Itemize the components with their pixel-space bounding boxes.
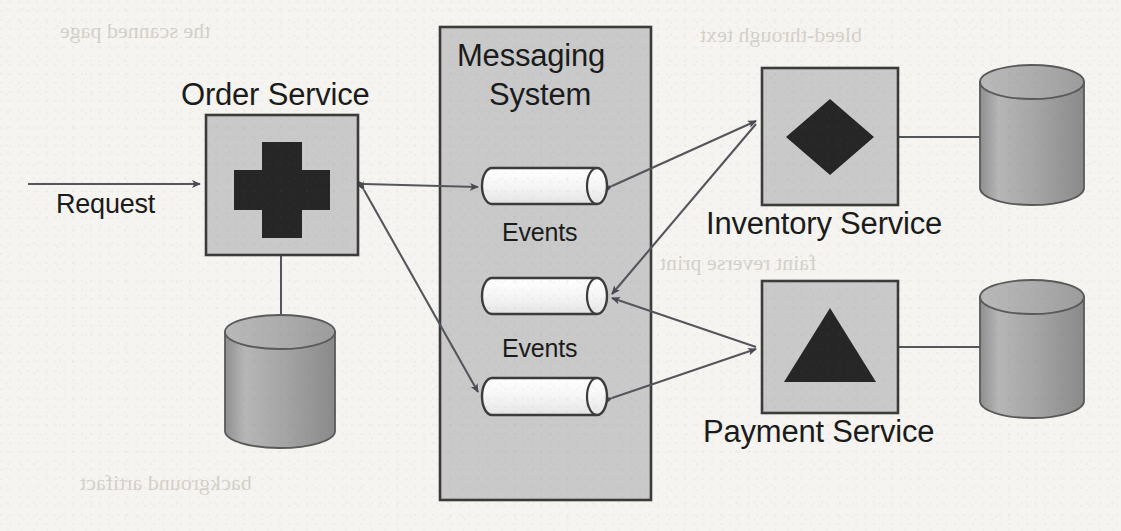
diagram-canvas: the scanned page bleed-through text fain… — [0, 0, 1121, 531]
request-label: Request — [56, 189, 155, 220]
messaging-system-label-line1: Messaging — [457, 38, 605, 74]
payment-database[interactable] — [980, 280, 1084, 418]
queue-1[interactable] — [482, 168, 607, 204]
inventory-service-box[interactable] — [762, 68, 898, 205]
messaging-system-label-line2: System — [489, 77, 591, 113]
queue-2[interactable] — [482, 278, 607, 314]
order-database[interactable] — [225, 315, 335, 448]
inventory-database[interactable] — [980, 65, 1084, 205]
events-label-top: Events — [502, 218, 577, 247]
order-service-label: Order Service — [181, 77, 370, 113]
queue-3[interactable] — [482, 378, 607, 415]
order-service-box[interactable] — [206, 115, 358, 255]
events-label-bottom: Events — [502, 334, 577, 363]
payment-service-box[interactable] — [762, 281, 898, 413]
inventory-service-label: Inventory Service — [706, 206, 942, 242]
payment-service-label: Payment Service — [703, 414, 934, 450]
